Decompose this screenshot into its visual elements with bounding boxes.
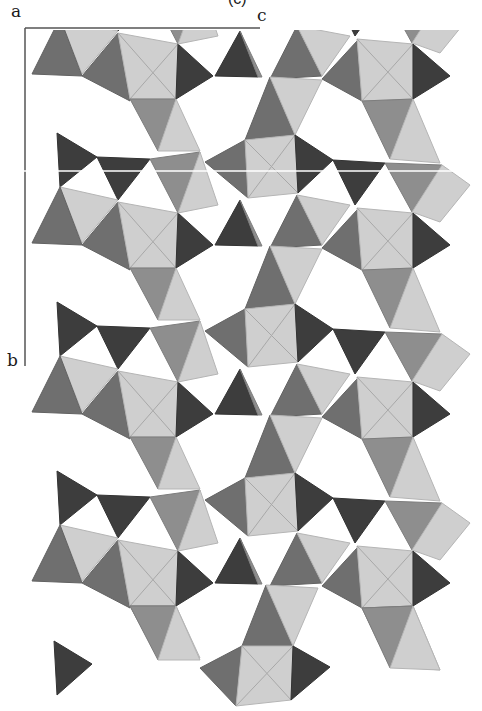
- crystal-structure-diagram: .light { fill: #cfcfcf; stroke: #b5b5b5;…: [0, 0, 482, 711]
- polyhedra-layer: [32, 0, 470, 670]
